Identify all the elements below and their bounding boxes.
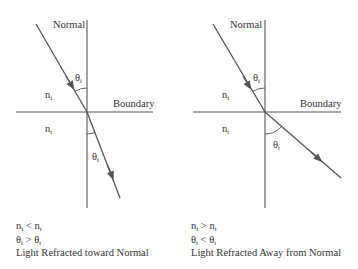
angle-relation: θi < θt (191, 233, 341, 247)
refracted-arrow-icon (108, 166, 112, 176)
caption-title: Light Refracted Away from Normal (191, 246, 341, 260)
incident-arrow-icon (66, 76, 72, 86)
transmitted-angle-arc (87, 133, 95, 135)
left-panel: Normal Boundary θi θt ni nt (16, 19, 155, 208)
incident-arrow-icon (243, 76, 249, 86)
incident-angle-label: θi (253, 72, 260, 85)
right-panel: Normal Boundary θi θt ni nt (193, 19, 342, 208)
transmitted-angle-label: θt (273, 139, 280, 152)
angle-relation: θi > θt (16, 233, 149, 247)
transmitted-angle-label: θt (92, 151, 99, 164)
transmitted-medium-label: nt (45, 123, 52, 136)
boundary-label: Boundary (300, 98, 342, 109)
index-relation: ni > nt (191, 219, 341, 233)
transmitted-angle-arc (265, 126, 282, 134)
left-caption: ni < nt θi > θt Light Refracted toward N… (16, 219, 149, 260)
right-caption: ni > nt θi < θt Light Refracted Away fro… (191, 219, 341, 260)
refracted-arrow-icon (311, 152, 319, 159)
incident-medium-label: ni (222, 89, 229, 102)
normal-label: Normal (230, 19, 262, 30)
boundary-label: Boundary (113, 98, 155, 109)
incident-angle-arc (75, 88, 87, 91)
transmitted-medium-label: nt (222, 123, 229, 136)
index-relation: ni < nt (16, 219, 149, 233)
incident-angle-label: θi (75, 72, 82, 85)
incident-ray (36, 24, 87, 112)
incident-angle-arc (253, 88, 265, 91)
normal-label: Normal (53, 19, 85, 30)
incident-ray (213, 24, 265, 112)
incident-medium-label: ni (45, 89, 52, 102)
caption-title: Light Refracted toward Normal (16, 246, 149, 260)
